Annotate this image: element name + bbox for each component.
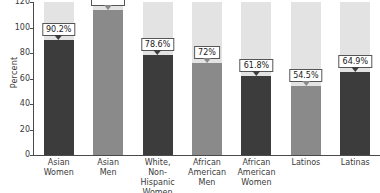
y-axis-tick-mark [30,130,33,131]
x-axis-label-line: White, [133,158,182,168]
data-label-arrow-icon [154,50,162,55]
data-label-callout-asian-men [91,0,125,11]
bar-latinas[interactable] [340,72,370,155]
bar-african-american-men[interactable] [192,63,222,155]
bar-african-american-women[interactable] [241,76,271,155]
y-axis-tick-label: 20 [4,126,30,134]
data-label-arrow-icon [252,71,260,76]
bar-asian-men[interactable] [93,10,123,155]
y-axis-title: Percent [10,43,19,103]
data-label-arrow-icon [351,67,359,72]
x-axis-label-line: Women [34,168,83,178]
x-axis-label-line: American [232,168,281,178]
y-axis-tick-mark [30,2,33,3]
bar-group-african-american-men[interactable] [192,2,222,155]
bar-asian-women[interactable] [44,40,74,155]
bar-group-latinas[interactable] [340,2,370,155]
data-label-callout-latinos: 54.5% [289,69,322,87]
x-axis-label-line: Men [83,168,132,178]
x-axis-label-line: Men [182,178,231,188]
x-axis-label-asian-women: AsianWomen [34,158,83,178]
x-axis-category-labels: AsianWomenAsianMenWhite,Non-HispanicWome… [34,157,380,193]
x-axis-label-line: Women [133,188,182,193]
data-label-callout-asian-women: 90.2% [42,23,75,41]
y-axis-tick-mark [30,53,33,54]
data-label-arrow-icon [55,35,63,40]
bar-group-white-non-hispanic-women[interactable] [143,2,173,155]
x-axis-label-asian-men: AsianMen [83,158,132,178]
x-axis-label-line: Latinos [281,158,330,168]
plot-area [34,2,380,155]
bar-chart: 120100806040200 Percent AsianWomenAsianM… [0,0,380,193]
data-label-callout-african-american-men: 72% [194,46,220,64]
y-axis-tick-mark [30,28,33,29]
y-axis-tick-mark [30,79,33,80]
bar-group-asian-men[interactable] [93,2,123,155]
data-label-arrow-icon [302,81,310,86]
x-axis-label-latinas: Latinas [331,158,380,168]
x-axis-label-line: Latinas [331,158,380,168]
y-axis-tick-mark [30,155,33,156]
bar-white-non-hispanic-women[interactable] [143,55,173,155]
x-axis-label-line: American [182,168,231,178]
bar-latinos[interactable] [291,86,321,155]
x-axis-label-african-american-men: AfricanAmericanMen [182,158,231,188]
x-axis-label-line: Asian [34,158,83,168]
y-axis-tick-label: 100 [4,24,30,32]
data-label-arrow-icon [203,58,211,63]
x-axis-label-african-american-women: AfricanAmericanWomen [232,158,281,188]
y-axis-tick-label: 0 [4,151,30,159]
data-label-callout-white-non-hispanic-women: 78.6% [141,38,174,56]
data-label-callout-latinas: 64.9% [339,55,372,73]
x-axis-label-line: Non-Hispanic [133,168,182,188]
y-axis-tick-mark [30,104,33,105]
x-axis-label-line: Women [232,178,281,188]
x-axis-label-line: Asian [83,158,132,168]
x-axis-label-line: African [182,158,231,168]
data-label-arrow-icon [104,5,112,10]
x-axis-label-white-non-hispanic-women: White,Non-HispanicWomen [133,158,182,193]
data-label-callout-african-american-women: 61.8% [240,59,273,77]
x-axis-label-latinos: Latinos [281,158,330,168]
x-axis-line [33,155,380,156]
bar-group-african-american-women[interactable] [241,2,271,155]
y-axis-tick-label: 120 [4,0,30,6]
x-axis-label-line: African [232,158,281,168]
